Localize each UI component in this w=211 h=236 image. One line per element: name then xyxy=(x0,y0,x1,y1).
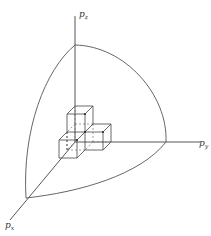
pz-label: pz xyxy=(79,9,89,20)
arc-zx xyxy=(26,45,75,198)
arc-zy xyxy=(75,45,166,142)
py-label: py xyxy=(199,138,209,150)
px-axis xyxy=(10,142,75,220)
unit-cubes xyxy=(59,106,111,158)
px-label: px xyxy=(5,220,15,231)
momentum-space-diagram: pz py px xyxy=(0,0,211,236)
